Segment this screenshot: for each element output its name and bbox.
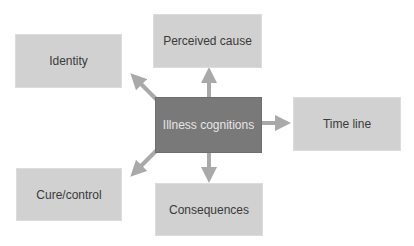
node-perceived-cause: Perceived cause: [153, 14, 262, 68]
node-identity: Identity: [15, 34, 122, 88]
node-time-line: Time line: [293, 97, 401, 151]
node-label: Time line: [323, 117, 371, 131]
node-consequences: Consequences: [155, 183, 263, 236]
node-label: Cure/control: [36, 188, 101, 202]
node-cure-control: Cure/control: [16, 168, 122, 221]
node-label: Identity: [49, 54, 88, 68]
center-label: Illness cognitions: [163, 118, 254, 132]
node-label: Consequences: [169, 203, 249, 217]
node-illness-cognitions: Illness cognitions: [155, 97, 262, 153]
node-label: Perceived cause: [163, 34, 252, 48]
